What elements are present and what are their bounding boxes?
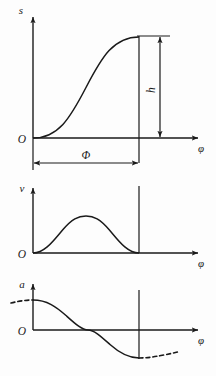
acceleration-curve bbox=[33, 300, 139, 358]
acceleration-curve-dashed-left bbox=[11, 300, 33, 303]
velocity-origin-label: O bbox=[18, 248, 27, 260]
kinematics-figure-container: s φ O h Φ v φ O a bbox=[0, 0, 216, 376]
kinematics-figure: s φ O h Φ v φ O a bbox=[0, 0, 216, 376]
displacement-curve bbox=[33, 37, 139, 138]
acceleration-y-axis-label: a bbox=[19, 278, 25, 290]
displacement-x-axis-label: φ bbox=[198, 142, 204, 154]
velocity-curve bbox=[33, 216, 139, 253]
displacement-origin-label: O bbox=[18, 133, 27, 145]
displacement-y-axis-label: s bbox=[19, 4, 23, 16]
acceleration-curve-dashed-right bbox=[139, 352, 180, 359]
panel-acceleration: a φ O bbox=[11, 278, 204, 359]
acceleration-x-axis-label: φ bbox=[198, 334, 204, 346]
rise-dimension-label: h bbox=[145, 87, 157, 93]
acceleration-origin-label: O bbox=[18, 325, 27, 337]
velocity-y-axis-label: v bbox=[20, 182, 25, 194]
panel-displacement: s φ O h Φ bbox=[18, 4, 204, 170]
velocity-x-axis-label: φ bbox=[198, 257, 204, 269]
angle-dimension-label: Φ bbox=[82, 149, 91, 161]
panel-velocity: v φ O bbox=[18, 182, 204, 269]
